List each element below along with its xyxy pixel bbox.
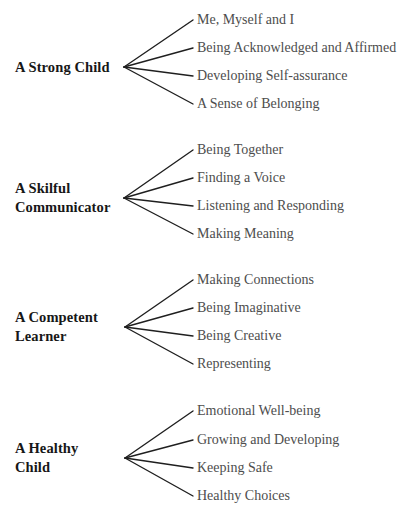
branch-line (125, 308, 193, 327)
branch-line (125, 327, 193, 336)
leaf-label: Growing and Developing (197, 432, 339, 448)
branch-line (125, 458, 193, 468)
leaf-label: Being Imaginative (197, 300, 301, 316)
leaf-label: Healthy Choices (197, 488, 290, 504)
root-label: A Healthy Child (15, 439, 78, 477)
leaf-label: Representing (197, 356, 271, 372)
branch-line (124, 20, 193, 67)
root-label: A Competent Learner (15, 308, 98, 346)
leaf-label: Finding a Voice (197, 170, 285, 186)
root-label: A Skilful Communicator (15, 179, 110, 217)
branch-line (124, 150, 193, 198)
leaf-label: Making Connections (197, 272, 314, 288)
leaf-label: Keeping Safe (197, 460, 273, 476)
branch-line (124, 67, 193, 104)
branch-line (124, 48, 193, 67)
branch-line (124, 198, 193, 234)
branch-line (124, 67, 193, 76)
diagram-canvas: A Strong ChildMe, Myself and IBeing Ackn… (0, 0, 408, 518)
leaf-label: Making Meaning (197, 226, 294, 242)
branch-line (125, 411, 193, 458)
leaf-label: Being Creative (197, 328, 281, 344)
branch-line (125, 280, 193, 327)
leaf-label: Developing Self-assurance (197, 68, 347, 84)
branch-line (125, 458, 193, 496)
branch-line (124, 198, 193, 206)
branch-line (124, 178, 193, 198)
leaf-label: Being Acknowledged and Affirmed (197, 40, 396, 56)
leaf-label: A Sense of Belonging (197, 96, 320, 112)
leaf-label: Listening and Responding (197, 198, 344, 214)
leaf-label: Me, Myself and I (197, 12, 294, 28)
leaf-label: Being Together (197, 142, 283, 158)
leaf-label: Emotional Well-being (197, 403, 320, 419)
root-label: A Strong Child (15, 58, 110, 77)
branch-line (125, 327, 193, 364)
branch-line (125, 440, 193, 458)
